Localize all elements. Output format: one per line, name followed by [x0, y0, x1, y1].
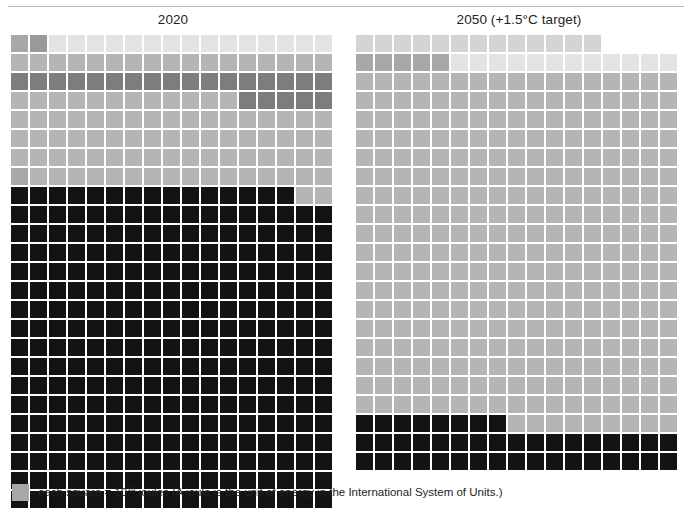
waffle-cell — [527, 453, 544, 470]
waffle-cell — [106, 130, 123, 147]
waffle-cell — [68, 377, 85, 394]
waffle-cell — [30, 206, 47, 223]
waffle-cell — [125, 339, 142, 356]
waffle-cell — [565, 73, 582, 90]
waffle-cell — [125, 320, 142, 337]
waffle-cell — [660, 149, 677, 166]
waffle-cell — [641, 244, 658, 261]
waffle-cell — [356, 168, 373, 185]
waffle-cell — [144, 187, 161, 204]
waffle-cell — [508, 73, 525, 90]
waffle-cell — [125, 282, 142, 299]
waffle-cell — [641, 206, 658, 223]
waffle-cell — [413, 358, 430, 375]
waffle-cell — [296, 168, 313, 185]
waffle-cell — [106, 244, 123, 261]
waffle-cell — [489, 54, 506, 71]
waffle-cell — [258, 206, 275, 223]
waffle-cell — [277, 73, 294, 90]
waffle-row — [11, 92, 346, 109]
waffle-cell — [546, 149, 563, 166]
waffle-cell — [508, 396, 525, 413]
waffle-cell — [603, 54, 620, 71]
waffle-cell — [239, 263, 256, 280]
waffle-cell — [315, 73, 332, 90]
waffle-cell — [125, 149, 142, 166]
waffle-cell — [470, 92, 487, 109]
waffle-row — [11, 377, 346, 394]
waffle-cell — [622, 415, 639, 432]
waffle-cell — [68, 434, 85, 451]
waffle-cell — [603, 111, 620, 128]
waffle-cell — [641, 54, 658, 71]
waffle-cell — [296, 35, 313, 52]
waffle-cell — [49, 282, 66, 299]
waffle-cell-empty — [603, 35, 620, 52]
waffle-cell — [641, 377, 658, 394]
waffle-cell — [413, 244, 430, 261]
waffle-row — [11, 35, 346, 52]
waffle-cell — [546, 54, 563, 71]
waffle-cell — [394, 263, 411, 280]
waffle-cell — [68, 339, 85, 356]
waffle-cell — [394, 396, 411, 413]
waffle-cell — [413, 206, 430, 223]
waffle-cell — [296, 377, 313, 394]
waffle-cell — [470, 377, 487, 394]
legend-text-after: joules (A joule is the unit of energy in… — [136, 486, 503, 498]
waffle-cell — [603, 206, 620, 223]
waffle-cell — [106, 225, 123, 242]
waffle-cell — [87, 358, 104, 375]
waffle-cell — [182, 54, 199, 71]
waffle-cell — [356, 92, 373, 109]
waffle-cell — [296, 396, 313, 413]
waffle-cell — [30, 415, 47, 432]
waffle-cell — [489, 168, 506, 185]
waffle-cell — [432, 168, 449, 185]
waffle-cell — [451, 263, 468, 280]
waffle-cell — [49, 206, 66, 223]
waffle-cell — [68, 187, 85, 204]
waffle-cell — [375, 244, 392, 261]
waffle-cell — [68, 301, 85, 318]
waffle-cell — [125, 130, 142, 147]
waffle-cell — [163, 54, 180, 71]
waffle-cell — [125, 263, 142, 280]
waffle-cell — [413, 301, 430, 318]
waffle-row — [356, 149, 692, 166]
waffle-cell — [277, 396, 294, 413]
waffle-cell — [603, 320, 620, 337]
waffle-cell — [30, 149, 47, 166]
waffle-cell — [277, 301, 294, 318]
waffle-cell — [375, 54, 392, 71]
waffle-cell — [527, 244, 544, 261]
waffle-cell — [258, 168, 275, 185]
waffle-cell — [277, 244, 294, 261]
waffle-cell — [470, 54, 487, 71]
waffle-row — [11, 225, 346, 242]
waffle-cell — [413, 73, 430, 90]
waffle-cell — [239, 73, 256, 90]
waffle-cell — [394, 453, 411, 470]
waffle-cell — [375, 434, 392, 451]
waffle-cell — [163, 339, 180, 356]
waffle-cell — [277, 415, 294, 432]
legend-exponent: 18 — [127, 484, 135, 493]
waffle-cell — [451, 206, 468, 223]
waffle-cell — [641, 73, 658, 90]
waffle-row — [11, 282, 346, 299]
waffle-cell — [565, 301, 582, 318]
waffle-cell — [49, 263, 66, 280]
waffle-cell — [413, 434, 430, 451]
waffle-cell — [220, 92, 237, 109]
waffle-cell — [182, 225, 199, 242]
waffle-cell — [220, 244, 237, 261]
waffle-cell — [394, 358, 411, 375]
waffle-cell — [68, 358, 85, 375]
waffle-cell — [87, 320, 104, 337]
waffle-cell — [87, 453, 104, 470]
waffle-cell — [201, 434, 218, 451]
waffle-row — [356, 206, 692, 223]
waffle-cell — [394, 149, 411, 166]
waffle-cell — [201, 168, 218, 185]
